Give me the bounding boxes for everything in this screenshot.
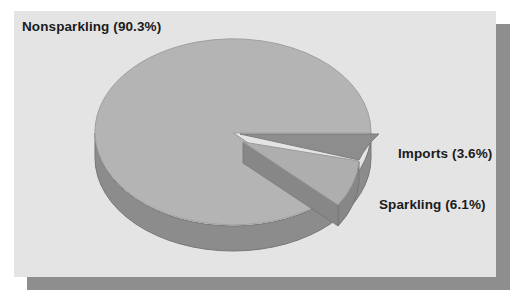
slice-label-sparkling: Sparkling (6.1%) xyxy=(379,197,486,212)
slice-label-nonsparkling: Nonsparkling (90.3%) xyxy=(22,19,161,34)
slice-label-imports: Imports (3.6%) xyxy=(398,146,492,161)
pie-chart-screenshot: Nonsparkling (90.3%) Imports (3.6%) Spar… xyxy=(0,0,521,306)
